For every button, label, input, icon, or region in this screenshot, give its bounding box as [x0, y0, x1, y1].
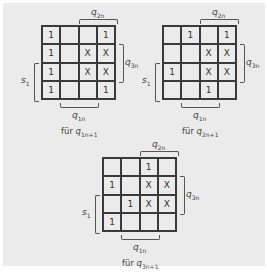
caption-prefix: für: [61, 126, 76, 136]
label-s1-sub: 1: [87, 212, 91, 219]
karnaugh-cell: X: [140, 176, 158, 194]
karnaugh-cell: 1: [103, 176, 121, 194]
karnaugh-cell: [121, 158, 139, 176]
brace-q1n: [181, 103, 220, 108]
label-s1: s1: [142, 76, 151, 87]
label-q2n-sub: 2n: [158, 144, 166, 151]
label-q3n-sub: 3n: [252, 62, 260, 69]
karnaugh-cell: [121, 176, 139, 194]
label-s1: s1: [21, 76, 30, 87]
label-q1n-sub: 1n: [199, 115, 207, 122]
label-s1-sub: 1: [26, 80, 30, 87]
karnaugh-cell: [103, 195, 121, 213]
karnaugh-cell: [163, 44, 181, 62]
karnaugh-cell: X: [140, 195, 158, 213]
brace-q1n: [60, 103, 99, 108]
label-q2n: q2n: [212, 8, 225, 19]
karnaugh-cell: 1: [103, 213, 121, 231]
karnaugh-cell: [60, 44, 78, 62]
brace-s1: [34, 63, 39, 102]
karnaugh-grid: 11XX1XX1: [162, 25, 237, 100]
karnaugh-cell: [60, 63, 78, 81]
karnaugh-cell: 1: [140, 158, 158, 176]
karnaugh-cell: X: [97, 63, 115, 81]
label-q2n-sub: 2n: [97, 12, 105, 19]
brace-q3n: [119, 44, 124, 83]
karnaugh-cell: X: [218, 44, 236, 62]
brace-s1: [155, 63, 160, 102]
label-q3n-sub: 3n: [131, 62, 139, 69]
karnaugh-cell: [60, 26, 78, 44]
caption-sub: 2n+1: [202, 131, 218, 138]
karnaugh-cell: 1: [42, 44, 60, 62]
karnaugh-cell: 1: [97, 81, 115, 99]
caption-prefix: für: [122, 258, 137, 268]
karnaugh-cell: X: [158, 195, 176, 213]
label-q1n-sub: 1n: [78, 115, 86, 122]
karnaugh-cell: [163, 81, 181, 99]
brace-q2n: [140, 151, 179, 156]
karnaugh-cell: [218, 81, 236, 99]
caption-sub: 3n+1: [142, 263, 158, 270]
label-q1n: q1n: [133, 243, 146, 254]
karnaugh-cell: [140, 213, 158, 231]
karnaugh-cell: 1: [42, 81, 60, 99]
brace-q2n: [79, 19, 118, 24]
karnaugh-grid: 111XX1XX11: [41, 25, 116, 100]
brace-s1: [95, 195, 100, 234]
label-q1n: q1n: [72, 111, 85, 122]
brace-q2n: [200, 19, 239, 24]
karnaugh-cell: X: [218, 63, 236, 81]
karnaugh-cell: 1: [200, 81, 218, 99]
label-q2n: q2n: [91, 8, 104, 19]
karnaugh-cell: X: [158, 176, 176, 194]
karnaugh-cell: 1: [42, 26, 60, 44]
karnaugh-cell: [121, 213, 139, 231]
label-q3n-sub: 3n: [192, 194, 200, 201]
karnaugh-cell: [103, 158, 121, 176]
map-caption: für q1n+1: [61, 127, 97, 138]
karnaugh-cell: [163, 26, 181, 44]
karnaugh-cell: [181, 81, 199, 99]
karnaugh-cell: X: [79, 63, 97, 81]
karnaugh-cell: X: [200, 63, 218, 81]
label-q3n: q3n: [125, 58, 138, 69]
karnaugh-cell: 1: [121, 195, 139, 213]
karnaugh-cell: 1: [97, 26, 115, 44]
karnaugh-cell: [158, 158, 176, 176]
karnaugh-cell: [79, 81, 97, 99]
caption-prefix: für: [182, 126, 197, 136]
caption-sub: 1n+1: [81, 131, 97, 138]
karnaugh-cell: [79, 26, 97, 44]
karnaugh-cell: [60, 81, 78, 99]
label-s1-sub: 1: [147, 80, 151, 87]
label-s1: s1: [82, 208, 91, 219]
label-q1n-sub: 1n: [139, 247, 147, 254]
label-q2n-sub: 2n: [218, 12, 226, 19]
karnaugh-cell: X: [97, 44, 115, 62]
brace-q1n: [121, 235, 160, 240]
karnaugh-cell: 1: [181, 26, 199, 44]
karnaugh-cell: 1: [163, 63, 181, 81]
karnaugh-cell: X: [200, 44, 218, 62]
brace-q3n: [240, 44, 245, 83]
karnaugh-cell: [181, 63, 199, 81]
label-q3n: q3n: [186, 190, 199, 201]
label-q3n: q3n: [246, 58, 259, 69]
label-q2n: q2n: [152, 140, 165, 151]
map-caption: für q3n+1: [122, 259, 158, 270]
karnaugh-grid: 11XX1XX1: [102, 157, 177, 232]
karnaugh-cell: [200, 26, 218, 44]
karnaugh-cell: 1: [42, 63, 60, 81]
karnaugh-cell: [158, 213, 176, 231]
karnaugh-cell: 1: [218, 26, 236, 44]
karnaugh-cell: [181, 44, 199, 62]
karnaugh-cell: X: [79, 44, 97, 62]
label-q1n: q1n: [193, 111, 206, 122]
map-caption: für q2n+1: [182, 127, 218, 138]
brace-q3n: [180, 176, 185, 215]
